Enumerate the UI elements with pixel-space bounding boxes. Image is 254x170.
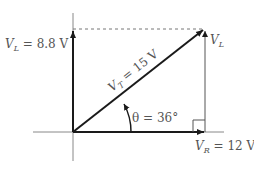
- vr-label: VR = 12 V: [195, 139, 254, 155]
- theta-arc: [124, 104, 131, 132]
- vl-right-label: VL: [210, 33, 224, 49]
- right-angle-marker: [193, 120, 205, 132]
- theta-label: θ = 36°: [132, 111, 178, 125]
- vl-left-label: VL = 8.8 V: [5, 37, 69, 53]
- vt-label: VT = 15 V: [105, 47, 162, 96]
- phasor-diagram: VL = 8.8 V VL VT = 15 V θ = 36° VR = 12 …: [0, 0, 254, 170]
